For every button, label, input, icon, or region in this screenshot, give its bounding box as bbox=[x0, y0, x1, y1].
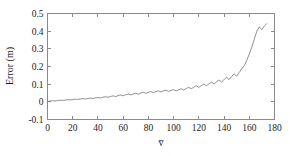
x-tick-label: 40 bbox=[93, 123, 103, 133]
y-tick-label: 0.1 bbox=[32, 80, 44, 90]
x-tick-label: 180 bbox=[267, 123, 282, 133]
y-tick-label: 0.3 bbox=[32, 44, 44, 54]
y-axis-title: Error (m) bbox=[4, 47, 16, 85]
x-axis-title: v̅ bbox=[158, 137, 164, 148]
y-tick-label: 0 bbox=[39, 97, 44, 107]
x-tick-label: 100 bbox=[166, 123, 181, 133]
x-tick-label: 140 bbox=[217, 123, 232, 133]
x-tick-label: 80 bbox=[144, 123, 154, 133]
figure-background bbox=[0, 0, 290, 156]
y-tick-label: -0.1 bbox=[28, 115, 43, 125]
x-tick-label: 160 bbox=[242, 123, 257, 133]
y-tick-label: 0.5 bbox=[32, 9, 44, 19]
x-tick-label: 0 bbox=[45, 123, 50, 133]
x-tick-label: 60 bbox=[118, 123, 128, 133]
y-tick-label: 0.2 bbox=[32, 62, 44, 72]
x-tick-label: 20 bbox=[68, 123, 78, 133]
chart-svg: 020406080100120140160180 -0.100.10.20.30… bbox=[0, 0, 290, 156]
x-tick-label: 120 bbox=[192, 123, 207, 133]
y-tick-label: 0.4 bbox=[32, 27, 44, 37]
error-vs-vbar-chart: 020406080100120140160180 -0.100.10.20.30… bbox=[0, 0, 290, 156]
